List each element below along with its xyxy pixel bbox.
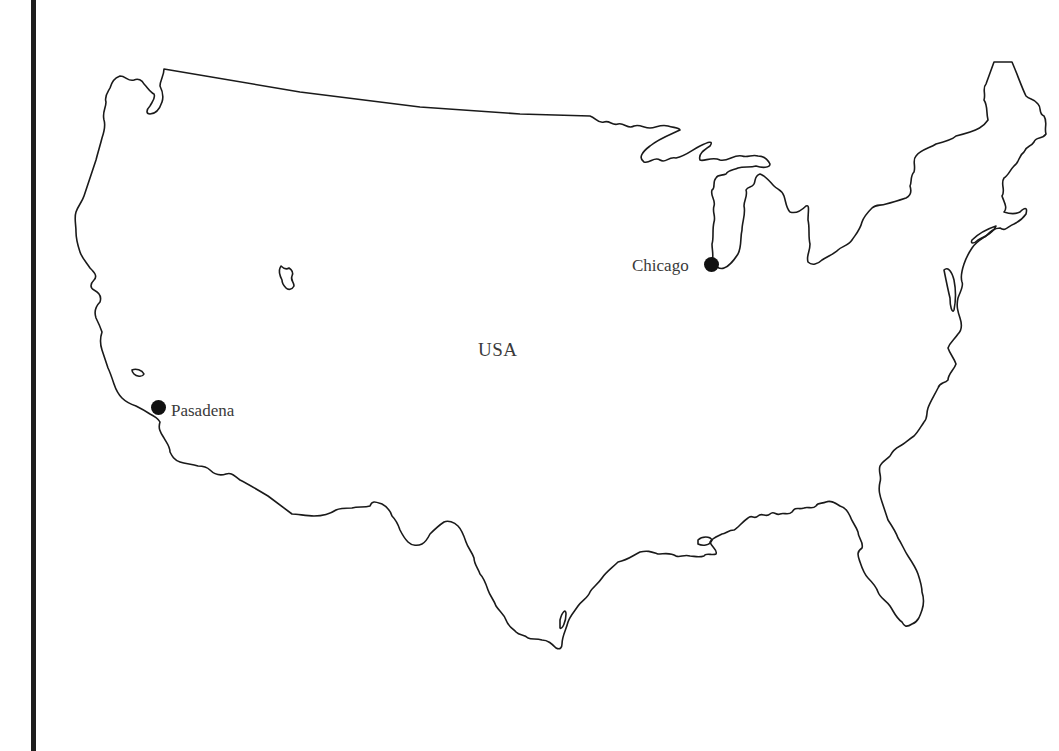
chicago-label: Chicago [632,257,689,274]
usa-border [75,62,1046,649]
usa-map-outline [0,0,1059,751]
country-label: USA [478,340,518,359]
pasadena-marker [151,400,166,415]
long-island [971,226,996,243]
chicago-marker [704,257,719,272]
chesapeake-bay [944,269,956,311]
great-salt-lake [279,266,294,289]
salton-sea [132,369,144,376]
gulf-barrier-island [560,611,566,628]
pasadena-label: Pasadena [171,402,234,419]
